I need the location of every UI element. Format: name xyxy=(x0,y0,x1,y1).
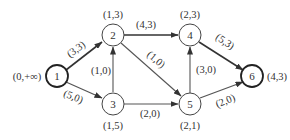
edge-label-5-4: (3,0) xyxy=(196,64,217,76)
node-5-mark: (2,1) xyxy=(180,120,201,132)
node-5: 5 (2,1) xyxy=(179,93,201,132)
edge-label-3-2: (1,0) xyxy=(91,65,112,77)
node-3-label: 3 xyxy=(110,98,116,110)
edge-label-1-3: (5,0) xyxy=(62,88,86,107)
edge-label-2-5: (1,0) xyxy=(144,49,168,71)
node-1-mark: (0,+∞) xyxy=(13,71,42,83)
node-6-label: 6 xyxy=(249,70,255,82)
node-5-label: 5 xyxy=(187,98,193,110)
node-1-label: 1 xyxy=(54,70,60,82)
node-3: 3 (1,5) xyxy=(102,93,124,132)
edge-label-3-5: (2,0) xyxy=(140,108,161,120)
node-2-mark: (1,3) xyxy=(103,9,124,21)
edge-label-2-4: (4,3) xyxy=(136,19,157,31)
node-1: 1 (0,+∞) xyxy=(13,65,68,87)
node-3-mark: (1,5) xyxy=(103,120,124,132)
node-2: 2 (1,3) xyxy=(102,9,124,46)
node-6: 6 (4,3) xyxy=(241,65,288,87)
flow-network-diagram: (3,3) (5,0) (1,0) (4,3) (1,0) (2,0) (3,0… xyxy=(0,0,290,140)
edge-label-4-6: (5,3) xyxy=(213,31,237,52)
node-2-label: 2 xyxy=(110,29,116,41)
node-4-label: 4 xyxy=(187,29,193,41)
edge-label-1-2: (3,3) xyxy=(65,38,89,60)
node-6-mark: (4,3) xyxy=(267,71,288,83)
edge-label-5-6: (2,0) xyxy=(214,92,238,111)
node-4: 4 (2,3) xyxy=(179,9,201,46)
node-4-mark: (2,3) xyxy=(180,9,201,21)
